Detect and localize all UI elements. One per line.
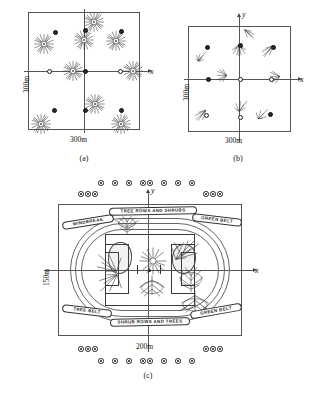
site-marker [175,358,181,364]
panel-c-caption: (c) [128,371,168,380]
site-marker [210,346,216,352]
panel-c-y-axis-arrowhead [146,189,150,193]
site-marker [140,180,146,186]
site-marker [203,191,209,197]
site-marker [189,358,195,364]
grass-tuft-symbol [233,98,249,114]
tree-symbol [110,113,132,135]
site-marker [98,358,104,364]
site-marker [78,346,84,352]
scatterer-dot [52,108,57,113]
scatterer-dot [53,30,58,35]
panel-c-height-label: 150m [42,269,51,286]
site-marker [161,358,167,364]
tree-symbol [30,113,52,135]
panel-b-width-label: 300m [225,136,242,145]
site-marker [147,358,153,364]
scatterer-dot [83,69,88,74]
site-marker [126,358,132,364]
tree-symbol [105,30,127,52]
panel-a-caption: (a) [64,154,104,163]
site-marker [112,358,118,364]
site-marker [98,180,104,186]
scatterer-dot [205,45,210,50]
site-marker [92,346,98,352]
site-marker [112,180,118,186]
tree-cluster [114,214,140,236]
scatterer-dot [238,115,243,120]
panel-c-x-axis-label: x [255,266,259,275]
site-marker [217,346,223,352]
panel-b: x y 300m 300m [155,0,314,175]
panel-b-x-axis-label: x [300,75,304,84]
site-marker [147,180,153,186]
site-marker [217,191,223,197]
panel-c-width-label: 200m [136,342,153,351]
panel-c: x y 150m 200m [0,178,314,397]
scatterer-dot [119,108,124,113]
panel-b-y-axis-label: y [242,10,246,19]
tree-symbol [122,60,144,82]
tree-cluster [96,270,126,296]
scatterer-dot [83,28,88,33]
tree-cluster [136,246,170,276]
scatterer-dot [118,69,123,74]
tree-symbol [62,60,84,82]
tree-cluster [136,274,168,298]
scatterer-dot [238,77,243,82]
tree-symbol [33,33,55,55]
site-marker [92,191,98,197]
site-marker [85,191,91,197]
site-marker [203,346,209,352]
panel-c-y-axis-label: y [151,186,155,195]
site-marker [161,180,167,186]
panel-a: x 300m 300m [0,0,155,175]
banner-label: SHRUB ROWS AND TREES [110,317,190,326]
scatterer-dot [238,43,243,48]
scatterer-dot [204,113,209,118]
site-marker [189,180,195,186]
site-marker [175,180,181,186]
site-marker [78,191,84,197]
site-marker [126,180,132,186]
site-marker [140,358,146,364]
scatterer-dot [119,29,124,34]
scatterer-dot [206,77,211,82]
scatterer-dot [269,77,274,82]
panel-a-height-label: 300m [22,76,31,93]
panel-a-width-label: 300m [70,135,87,144]
scatterer-dot [83,108,88,113]
scatterer-dot [271,45,276,50]
site-marker [85,346,91,352]
panel-b-height-label: 300m [182,84,191,101]
scatterer-dot [268,112,273,117]
grass-tuft-symbol [215,68,231,84]
site-marker [210,191,216,197]
panel-a-x-axis-label: x [150,67,154,76]
panel-b-caption: (b) [218,154,258,163]
grass-tuft-symbol [243,27,259,43]
panel-b-y-axis-arrowhead [237,13,241,17]
banner-label: TREE ROWS AND SHRUBS [109,206,197,215]
scatterer-dot [47,69,52,74]
